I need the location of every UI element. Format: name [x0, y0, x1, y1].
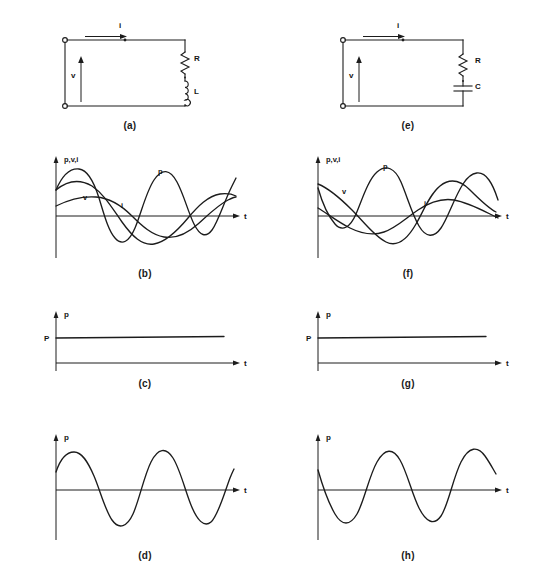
curve-constant-power-g	[318, 337, 486, 339]
xlabel-f: t	[506, 212, 509, 221]
panel-b-waveform-rl: p,v,i t v i p	[38, 150, 258, 260]
panel-a-circuit-rl: i v R L	[55, 28, 235, 118]
xlabel-c: t	[244, 359, 247, 368]
curve-i-f	[318, 199, 498, 234]
figure-page: i v R L (a) i v	[0, 0, 555, 583]
panel-c-average-power-rl: p t P	[38, 305, 258, 375]
curve-oscillating-power-h	[318, 449, 496, 523]
voltage-arrow-head	[78, 56, 84, 63]
y-axis-arrow-head	[316, 311, 321, 318]
label-resistor-r-e: R	[475, 57, 481, 65]
xlabel-b: t	[244, 212, 247, 221]
voltage-arrow-head	[356, 56, 362, 63]
ylabel-c: p	[64, 310, 69, 319]
ylabel-b: p,v,i	[64, 155, 78, 164]
label-current-i-e: i	[397, 22, 399, 30]
circuit-rl-svg	[55, 28, 235, 118]
xlabel-d: t	[244, 486, 247, 495]
curve-oscillating-power-d	[56, 451, 234, 526]
ylabel-h: p	[326, 433, 331, 442]
curve-v-b	[56, 181, 236, 244]
ylabel-g: p	[326, 310, 331, 319]
y-axis-arrow-head	[316, 156, 321, 163]
curve-label-p-f: p	[383, 162, 388, 171]
waveform-g-svg: p t P	[300, 305, 520, 375]
xlabel-g: t	[506, 359, 509, 368]
circuit-rc-svg	[333, 28, 513, 118]
curve-constant-power-c	[56, 337, 224, 339]
panel-d-oscillating-power-rl: p t	[38, 428, 258, 548]
label-resistor-r-a: R	[194, 55, 200, 63]
midpoint-dot	[184, 77, 186, 79]
curve-p-b	[56, 169, 236, 242]
panel-h-oscillating-power-rc: p t	[300, 428, 520, 548]
caption-g: (g)	[378, 378, 438, 389]
caption-e: (e)	[378, 120, 438, 131]
level-label-P-g: P	[306, 334, 312, 343]
caption-d: (d)	[115, 550, 175, 561]
ylabel-d: p	[64, 433, 69, 442]
label-source-v-a: v	[71, 72, 75, 80]
y-axis-arrow-head	[316, 434, 321, 441]
y-axis-arrow-head	[54, 156, 59, 163]
curve-label-i-b: i	[121, 201, 123, 210]
level-label-P-c: P	[44, 334, 50, 343]
curve-label-v-f: v	[342, 187, 347, 196]
caption-h: (h)	[378, 550, 438, 561]
caption-f: (f)	[378, 268, 438, 279]
label-inductor-l-a: L	[194, 88, 199, 96]
waveform-f-svg: p,v,i t v i p	[300, 150, 520, 260]
label-source-v-e: v	[349, 72, 353, 80]
label-current-i-a: i	[119, 22, 121, 30]
waveform-h-svg: p t	[300, 428, 520, 548]
current-arrow-head	[398, 34, 405, 39]
caption-a: (a)	[100, 120, 160, 131]
y-axis-arrow-head	[54, 434, 59, 441]
curve-i-b	[56, 197, 236, 238]
panel-f-waveform-rc: p,v,i t v i p	[300, 150, 520, 260]
midpoint-dot	[462, 80, 464, 82]
caption-c: (c)	[115, 378, 175, 389]
xlabel-h: t	[506, 486, 509, 495]
waveform-d-svg: p t	[38, 428, 258, 548]
curve-label-p-b: p	[158, 167, 163, 176]
ylabel-f: p,v,i	[326, 155, 340, 164]
panel-g-average-power-rc: p t P	[300, 305, 520, 375]
panel-e-circuit-rc: i v R C	[333, 28, 513, 118]
curve-label-i-f: i	[424, 199, 426, 208]
caption-b: (b)	[115, 268, 175, 279]
current-arrow-head	[120, 34, 127, 39]
current-node-dot	[402, 39, 405, 42]
current-node-dot	[124, 39, 127, 42]
waveform-b-svg: p,v,i t v i p	[38, 150, 258, 260]
y-axis-arrow-head	[54, 311, 59, 318]
label-capacitor-c-e: C	[475, 83, 481, 91]
waveform-c-svg: p t P	[38, 305, 258, 375]
